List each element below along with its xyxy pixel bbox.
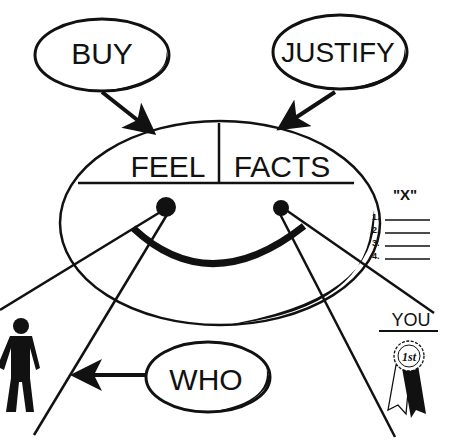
x-list-title: "X" — [393, 186, 417, 203]
you-label: YOU — [391, 310, 430, 330]
justify-bubble: JUSTIFY — [273, 15, 407, 126]
buy-label: BUY — [71, 37, 133, 70]
diagram-canvas: BUY JUSTIFY FEEL FACTS WHO — [0, 0, 449, 447]
facts-label: FACTS — [234, 150, 331, 183]
x-list-item-2: 2. — [372, 225, 380, 235]
who-bubble: WHO — [78, 342, 270, 413]
face-ellipse: FEEL FACTS — [60, 121, 380, 326]
line-right-eye-outer — [286, 210, 434, 313]
who-label: WHO — [169, 363, 242, 396]
x-list-item-1: 1. — [372, 212, 380, 222]
buy-arrow — [102, 92, 150, 130]
smile — [133, 226, 304, 264]
x-list-item-3: 3. — [372, 238, 380, 248]
justify-label: JUSTIFY — [281, 37, 395, 68]
line-left-eye-inner — [34, 213, 168, 435]
justify-arrow — [283, 92, 335, 126]
ribbon-icon: 1st — [388, 341, 426, 418]
person-icon — [0, 318, 40, 412]
x-list-item-4: 4. — [372, 251, 380, 261]
you-award: YOU 1st — [379, 310, 438, 418]
ribbon-text: 1st — [402, 350, 417, 364]
line-left-eye-outer — [0, 211, 162, 310]
buy-bubble: BUY — [35, 19, 169, 130]
feel-label: FEEL — [130, 150, 205, 183]
